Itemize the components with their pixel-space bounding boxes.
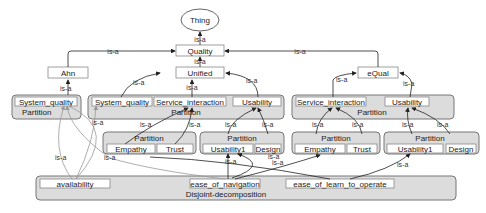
svg-text:is-a: is-a xyxy=(92,119,103,126)
svg-text:Design: Design xyxy=(449,145,474,154)
group-equal-si-partition: Partition Empathy Trust xyxy=(292,132,380,154)
svg-text:Usability: Usability xyxy=(392,98,422,107)
svg-text:Empathy: Empathy xyxy=(115,145,147,154)
svg-text:eQual: eQual xyxy=(367,69,389,78)
svg-text:Quality: Quality xyxy=(188,47,213,56)
svg-text:Thing: Thing xyxy=(190,16,210,25)
svg-text:is-a: is-a xyxy=(294,48,305,55)
svg-text:is-a: is-a xyxy=(352,121,363,128)
svg-text:Unified: Unified xyxy=(188,69,213,78)
svg-text:is-a: is-a xyxy=(336,76,347,83)
svg-text:is-a: is-a xyxy=(397,161,408,168)
svg-text:Service_interaction: Service_interaction xyxy=(156,98,224,107)
node-ahn: Ahn xyxy=(48,67,88,78)
svg-text:is-a: is-a xyxy=(60,85,71,92)
node-quality: Quality xyxy=(176,45,224,56)
svg-text:Partition: Partition xyxy=(22,108,51,117)
svg-text:Partition: Partition xyxy=(171,108,200,117)
svg-text:Usability1: Usability1 xyxy=(211,145,246,154)
svg-text:System_quality: System_quality xyxy=(95,98,149,107)
svg-text:is-a: is-a xyxy=(189,121,200,128)
svg-text:is-a: is-a xyxy=(246,77,257,84)
svg-text:is-a: is-a xyxy=(402,121,413,128)
svg-text:availability: availability xyxy=(57,180,94,189)
node-unified: Unified xyxy=(176,67,224,78)
svg-text:Partition: Partition xyxy=(134,134,163,143)
node-equal: eQual xyxy=(358,67,398,78)
svg-text:Empathy: Empathy xyxy=(304,145,336,154)
svg-text:is-a: is-a xyxy=(55,154,66,161)
svg-text:Trust: Trust xyxy=(353,145,372,154)
svg-text:Usability: Usability xyxy=(242,98,272,107)
group-unified-partition: System_quality Service_interaction Usabi… xyxy=(88,95,284,119)
svg-text:Partition: Partition xyxy=(227,134,256,143)
svg-text:Disjoint-decomposition: Disjoint-decomposition xyxy=(186,190,266,199)
svg-text:is-a: is-a xyxy=(312,121,323,128)
svg-text:is-a: is-a xyxy=(104,154,115,161)
svg-text:is-a: is-a xyxy=(437,121,448,128)
group-disjoint-decomposition: availability ease_of_navigation ease_of_… xyxy=(36,176,456,200)
svg-text:Ahn: Ahn xyxy=(61,69,75,78)
svg-text:Trust: Trust xyxy=(166,145,185,154)
svg-text:Partition: Partition xyxy=(415,134,444,143)
svg-text:is-a: is-a xyxy=(262,121,273,128)
svg-text:is-a: is-a xyxy=(133,79,144,86)
svg-text:is-a: is-a xyxy=(194,58,205,65)
svg-text:ease_of_learn_to_operate: ease_of_learn_to_operate xyxy=(293,180,387,189)
group-unified-si-partition: Partition Empathy Trust xyxy=(103,132,196,154)
group-unified-us-partition: Partition Usability1 Design xyxy=(200,132,284,154)
svg-text:Usability1: Usability1 xyxy=(398,145,433,154)
group-equal-us-partition: Partition Usability1 Design xyxy=(384,132,479,154)
node-thing: Thing xyxy=(181,9,219,31)
svg-text:is-a: is-a xyxy=(403,80,414,87)
svg-text:Partition: Partition xyxy=(357,108,386,117)
svg-text:Partition: Partition xyxy=(321,134,350,143)
ontology-diagram: Thing Quality is-a Ahn is-a Unified is-a… xyxy=(0,0,486,213)
isa-label: is-a xyxy=(194,36,205,43)
svg-text:is-a: is-a xyxy=(268,153,279,160)
svg-text:System_quality: System_quality xyxy=(19,98,73,107)
svg-text:ease_of_navigation: ease_of_navigation xyxy=(190,180,259,189)
svg-text:is-a: is-a xyxy=(272,159,283,166)
group-equal-partition: Service_interaction Usability Partition xyxy=(292,95,454,119)
svg-text:is-a: is-a xyxy=(107,48,118,55)
svg-text:is-a: is-a xyxy=(140,121,151,128)
svg-text:Service_interaction: Service_interaction xyxy=(297,98,365,107)
svg-text:is-a: is-a xyxy=(225,121,236,128)
svg-text:is-a: is-a xyxy=(186,84,197,91)
